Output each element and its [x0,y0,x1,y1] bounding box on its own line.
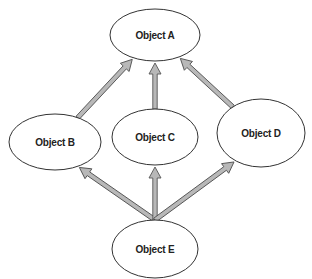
node-object-e: Object E [112,220,198,278]
arrow-e-to-c-icon [149,167,161,220]
node-object-c: Object C [112,109,198,165]
node-object-a: Object A [110,9,200,61]
node-label: Object A [135,30,174,41]
node-object-b: Object B [9,114,101,170]
arrow-b-to-a-icon [73,55,136,122]
node-object-d: Object D [217,99,305,167]
node-label: Object D [241,128,281,139]
node-label: Object C [135,132,175,143]
node-label: Object B [35,137,75,148]
nodes-layer: Object AObject BObject CObject DObject E [9,9,305,278]
arrow-d-to-a-icon [176,54,237,111]
arrow-e-to-b-icon [76,163,158,225]
arrow-c-to-a-icon [149,63,161,109]
node-label: Object E [136,244,175,255]
inheritance-diagram: Object AObject BObject CObject DObject E [0,0,312,279]
arrow-e-to-d-icon [151,157,237,225]
